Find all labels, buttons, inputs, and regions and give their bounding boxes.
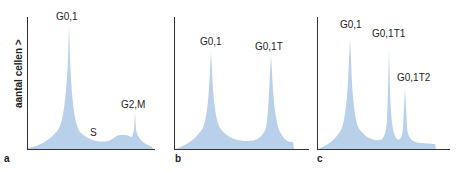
cell-cycle-histograms: aantal cellen > G0,1 S G2,M a G0,1 G0,1T… (0, 0, 463, 172)
panel-letter-a: a (4, 153, 10, 164)
peak-label-g01t2: G0,1T2 (397, 72, 431, 83)
peak-label-g2m: G2,M (121, 99, 145, 110)
panel-letter-b: b (175, 153, 181, 164)
panel-c: G0,1 G0,1T1 G0,1T2 c (317, 17, 450, 164)
peak-label-g01: G0,1 (56, 11, 78, 22)
histogram-area-b (175, 52, 294, 149)
panel-letter-c: c (317, 153, 323, 164)
peak-label-g01t1: G0,1T1 (372, 28, 406, 39)
peak-label-g01: G0,1 (200, 36, 222, 47)
y-axis-label: aantal cellen > (13, 39, 24, 108)
panel-b: G0,1 G0,1T b (174, 17, 309, 164)
panel-a: G0,1 S G2,M a (4, 11, 155, 164)
peak-label-g01: G0,1 (340, 19, 362, 30)
histogram-area-c (318, 38, 436, 149)
peak-label-s: S (90, 127, 97, 138)
peak-label-g01t: G0,1T (255, 41, 283, 52)
